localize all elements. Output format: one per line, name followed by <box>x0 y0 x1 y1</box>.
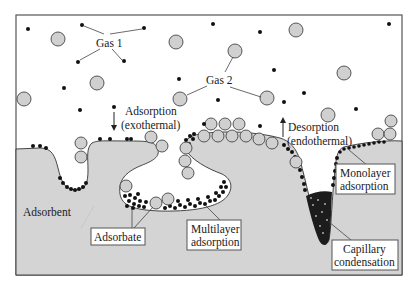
monolayer-label-2: adsorption <box>340 180 389 193</box>
gas1-label: Gas 1 <box>96 37 123 49</box>
adsorbate-label: Adsorbate <box>94 231 141 243</box>
adsorbent-label: Adsorbent <box>23 206 72 218</box>
multilayer-label-1: Multilayer <box>191 223 240 236</box>
gas2-label: Gas 2 <box>206 74 233 86</box>
adsorption-diagram: Gas 1 Gas 2 Adsorption (exothermal) Deso… <box>0 0 417 287</box>
monolayer-label-1: Monolayer <box>340 167 391 180</box>
adsorption-sublabel: (exothermal) <box>121 119 181 132</box>
adsorption-label: Adsorption <box>125 105 177 118</box>
capillary-label-2: condensation <box>334 256 395 268</box>
multilayer-label-2: adsorption <box>191 236 240 249</box>
desorption-sublabel: (endothermal) <box>287 135 352 148</box>
capillary-label-1: Capillary <box>343 243 386 256</box>
desorption-label: Desorption <box>288 121 339 134</box>
